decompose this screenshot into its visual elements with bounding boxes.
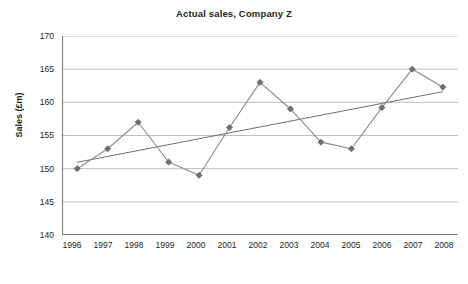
x-tick-label: 2008 (424, 240, 464, 250)
data-point-marker (196, 172, 202, 178)
y-tick-label: 140 (20, 230, 54, 240)
data-point-markers (74, 66, 446, 178)
data-point-marker (440, 84, 446, 90)
plot-area (62, 36, 458, 235)
data-point-marker (74, 166, 80, 172)
y-tick-label: 155 (20, 130, 54, 140)
gridlines (62, 36, 458, 202)
plot-svg (62, 36, 458, 235)
data-point-marker (226, 124, 232, 130)
y-tick-label: 150 (20, 164, 54, 174)
chart-container: Actual sales, Company Z Sales (£m) 170 1… (0, 0, 468, 284)
y-tick-label: 165 (20, 64, 54, 74)
y-tick-label: 160 (20, 97, 54, 107)
chart-title: Actual sales, Company Z (0, 8, 468, 19)
y-tick-label: 170 (20, 31, 54, 41)
y-tick-label: 145 (20, 197, 54, 207)
